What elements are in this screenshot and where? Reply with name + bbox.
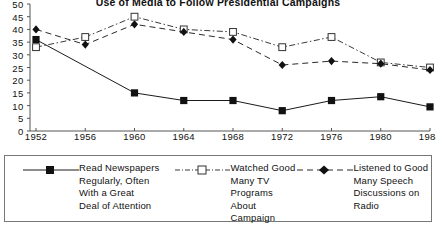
data-point-marker xyxy=(229,36,236,44)
legend-item-radio[interactable]: Listened to Good Many Speech Discussions… xyxy=(297,162,431,221)
x-tick-label: 1984 xyxy=(419,131,436,142)
data-point-marker xyxy=(32,36,39,43)
data-point-marker xyxy=(82,34,89,41)
chart-figure: Use of Media to Follow Presidential Camp… xyxy=(0,0,436,226)
legend-label-newspapers: Read Newspapers Regularly, Often With a … xyxy=(79,162,159,212)
data-point-marker xyxy=(279,61,286,69)
legend-item-tv[interactable]: Watched Good Many TV Programs About Camp… xyxy=(173,162,298,221)
x-tick-label: 1968 xyxy=(222,131,244,142)
legend-label-tv: Watched Good Many TV Programs About Camp… xyxy=(231,162,298,225)
data-point-marker xyxy=(82,41,89,49)
data-point-marker xyxy=(279,44,286,51)
x-tick-label: 1964 xyxy=(173,131,195,142)
data-point-marker xyxy=(131,20,138,28)
legend-entries: Read Newspapers Regularly, Often With a … xyxy=(5,156,431,221)
x-tick-label: 1972 xyxy=(271,131,293,142)
data-point-marker xyxy=(180,97,187,104)
data-point-marker xyxy=(230,29,237,36)
data-point-marker xyxy=(377,93,384,100)
data-point-marker xyxy=(328,57,335,65)
x-tick-label: 1960 xyxy=(123,131,145,142)
data-point-marker xyxy=(131,13,138,20)
x-axis-tick-labels: 195219561960196419681972197619801984 xyxy=(0,131,436,149)
chart-legend: Read Newspapers Regularly, Often With a … xyxy=(4,155,432,222)
data-point-marker xyxy=(328,97,335,104)
x-tick-label: 1976 xyxy=(320,131,342,142)
plot-svg xyxy=(0,0,436,150)
data-point-marker xyxy=(229,97,236,104)
x-tick-label: 1980 xyxy=(370,131,392,142)
legend-label-radio: Listened to Good Many Speech Discussions… xyxy=(353,162,428,212)
data-point-marker xyxy=(131,89,138,96)
data-point-marker xyxy=(426,103,433,110)
filled-square-icon xyxy=(23,163,79,177)
data-point-marker xyxy=(279,107,286,114)
x-tick-label: 1952 xyxy=(25,131,47,142)
filled-diamond-icon xyxy=(297,163,353,177)
data-point-marker xyxy=(328,34,335,41)
legend-item-newspapers[interactable]: Read Newspapers Regularly, Often With a … xyxy=(5,162,173,221)
plot-area: 50454035302520151050 1952195619601964196… xyxy=(0,0,436,150)
data-point-marker xyxy=(32,25,39,33)
data-point-marker xyxy=(33,44,40,51)
open-square-icon xyxy=(175,163,231,177)
x-tick-label: 1956 xyxy=(74,131,96,142)
